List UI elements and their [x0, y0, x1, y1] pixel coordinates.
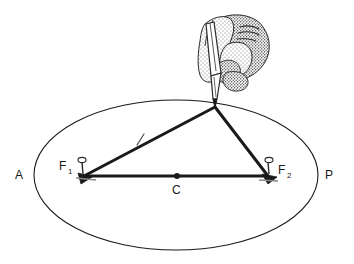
label-focus-1: F: [59, 159, 66, 173]
label-focus-1-subscript: 1: [68, 167, 73, 176]
ellipse-construction-figure: A P F 1 F 2 C: [0, 0, 354, 264]
knuckle-bulge-shape: [223, 71, 248, 91]
diagram-canvas: A P F 1 F 2 C: [0, 0, 354, 264]
label-center-c: C: [172, 183, 181, 197]
label-focus-2: F: [278, 163, 285, 177]
pin-shaft-f1: [82, 162, 83, 174]
label-vertex-a: A: [15, 168, 23, 182]
figure-background: [0, 0, 354, 264]
pin-head-f1: [78, 157, 86, 162]
label-focus-2-subscript: 2: [287, 171, 292, 180]
pin-head-f2: [265, 157, 273, 162]
center-point-marker: [174, 173, 180, 179]
label-vertex-p: P: [325, 168, 333, 182]
pin-shaft-f2: [268, 162, 269, 174]
